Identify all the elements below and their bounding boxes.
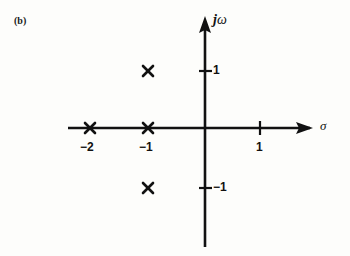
pole-marker-lower-complex xyxy=(143,183,153,193)
pole-zero-plot-figure: (b) jω σ xyxy=(0,0,350,256)
tick-label-real-neg1: −1 xyxy=(139,140,153,154)
tick-label-imag-pos1: 1 xyxy=(213,63,220,77)
tick-label-real-neg2: −2 xyxy=(80,140,94,154)
pole-marker-upper-complex xyxy=(143,66,153,76)
sigma-axis-label: σ xyxy=(320,118,326,134)
omega-glyph: ω xyxy=(217,12,227,27)
j-omega-axis-label: jω xyxy=(213,12,227,28)
tick-label-imag-neg1: −1 xyxy=(213,180,227,194)
tick-label-real-pos1: 1 xyxy=(256,140,263,154)
panel-label-b: (b) xyxy=(14,15,26,26)
complex-plane-svg xyxy=(0,0,350,256)
